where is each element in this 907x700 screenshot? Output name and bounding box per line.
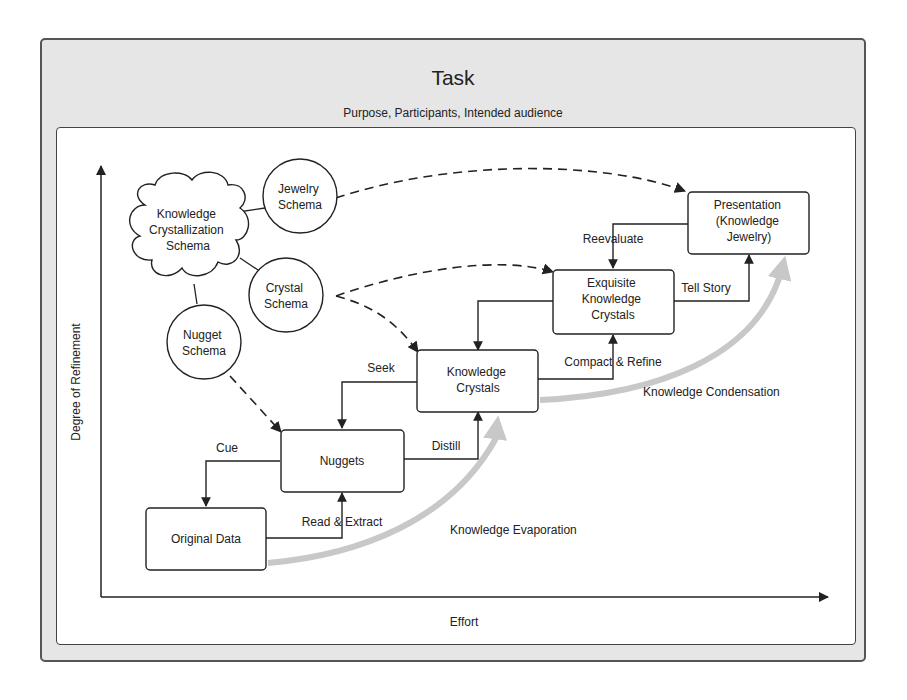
exquisite-line-3: Crystals — [591, 308, 634, 322]
exquisite-line-1: Exquisite — [587, 276, 636, 290]
node-exquisite-knowledge-crystals: Exquisite Knowledge Crystals — [553, 270, 674, 334]
exquisite-line-2: Knowledge — [582, 292, 642, 306]
node-original-data: Original Data — [146, 508, 266, 570]
cloud-line-1: Knowledge — [157, 207, 217, 221]
presentation-line-1: Presentation — [714, 198, 781, 212]
evaporation-label: Knowledge Evaporation — [450, 523, 577, 537]
edge-label-tell-story: Tell Story — [681, 281, 730, 295]
original-data-label: Original Data — [171, 532, 241, 546]
nugget-schema-line-2: Schema — [182, 344, 226, 358]
crystal-schema-line-2: Schema — [264, 297, 308, 311]
cloud-line-2: Crystallization — [149, 223, 224, 237]
edge-label-cue: Cue — [216, 441, 238, 455]
edge-label-distill: Distill — [432, 439, 461, 453]
y-axis-label: Degree of Refinement — [69, 323, 83, 441]
knowledge-crystals-line-2: Crystals — [456, 381, 499, 395]
jewelry-schema-line-1: Jewelry — [278, 182, 319, 196]
node-nuggets: Nuggets — [281, 430, 404, 492]
nuggets-label: Nuggets — [320, 454, 365, 468]
x-axis-label: Effort — [450, 615, 479, 629]
knowledge-crystallization-diagram: Degree of Refinement Effort Knowledge Ev… — [0, 0, 907, 700]
crystal-schema-circle: Crystal Schema — [249, 258, 323, 332]
jewelry-schema-circle: Jewelry Schema — [263, 159, 337, 233]
crystal-schema-line-1: Crystal — [266, 281, 303, 295]
cloud-line-3: Schema — [166, 239, 210, 253]
presentation-line-2: (Knowledge — [716, 214, 780, 228]
knowledge-crystallization-schema-cloud: Knowledge Crystallization Schema — [130, 172, 249, 276]
jewelry-schema-line-2: Schema — [278, 198, 322, 212]
edge-label-reevaluate: Reevaluate — [583, 232, 644, 246]
edge-label-compact-refine: Compact & Refine — [564, 355, 662, 369]
node-presentation: Presentation (Knowledge Jewelry) — [688, 192, 809, 254]
nugget-schema-line-1: Nugget — [183, 328, 222, 342]
knowledge-crystals-line-1: Knowledge — [447, 365, 507, 379]
edge-label-seek: Seek — [367, 361, 395, 375]
node-knowledge-crystals: Knowledge Crystals — [417, 350, 538, 412]
presentation-line-3: Jewelry) — [727, 230, 772, 244]
condensation-label: Knowledge Condensation — [643, 385, 780, 399]
edge-label-read-extract: Read & Extract — [302, 515, 383, 529]
nugget-schema-circle: Nugget Schema — [167, 305, 241, 379]
